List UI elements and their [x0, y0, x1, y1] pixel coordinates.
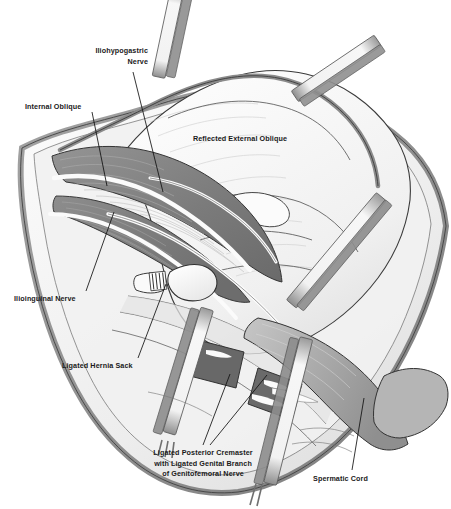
label-reflected-external-oblique: Reflected External Oblique [193, 134, 287, 145]
label-spermatic-cord: Spermatic Cord [313, 474, 368, 485]
surgical-illustration-figure: Iliohypogastric NerveInternal ObliqueRef… [0, 0, 451, 509]
label-iliohypogastric-nerve: Iliohypogastric Nerve [95, 46, 148, 67]
ligated-hernia-sack-bulb [168, 265, 217, 301]
label-ligated-posterior-cremaster: Ligated Posterior Cremaster with Ligated… [153, 448, 252, 480]
label-internal-oblique: Internal Oblique [25, 102, 81, 113]
anatomy-artwork [0, 0, 451, 509]
label-ilioinguinal-nerve: Ilioinguinal Nerve [14, 294, 76, 305]
label-ligated-hernia-sack: Ligated Hernia Sack [62, 361, 133, 372]
